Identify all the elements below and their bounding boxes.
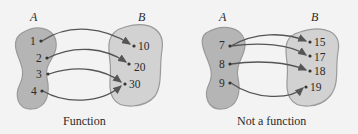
codomain-value: 30 <box>129 78 141 90</box>
diagram-canvas: A B 1 2 3 4 10 20 30 Function A B 7 8 9 … <box>0 0 358 134</box>
codomain-value: 10 <box>138 40 150 52</box>
function-diagram: A B 1 2 3 4 10 20 30 Function <box>15 10 162 128</box>
set-b-shape <box>286 29 339 106</box>
caption: Not a function <box>237 114 306 128</box>
domain-value: 2 <box>36 52 42 64</box>
set-b-label: B <box>311 10 319 24</box>
not-a-function-diagram: A B 7 8 9 15 17 18 19 Not a function <box>202 10 338 128</box>
codomain-value: 20 <box>134 61 146 73</box>
codomain-value: 18 <box>314 65 326 77</box>
domain-value: 7 <box>219 39 225 51</box>
caption: Function <box>63 114 106 128</box>
set-b-label: B <box>138 10 146 24</box>
domain-value: 9 <box>219 77 225 89</box>
domain-value: 8 <box>219 58 225 70</box>
domain-value: 3 <box>36 68 42 80</box>
codomain-value: 17 <box>314 51 326 63</box>
set-a-label: A <box>29 10 38 24</box>
codomain-value: 15 <box>314 36 326 48</box>
domain-value: 1 <box>30 35 36 47</box>
domain-value: 4 <box>31 85 37 97</box>
set-a-label: A <box>218 10 227 24</box>
codomain-value: 19 <box>310 81 322 93</box>
